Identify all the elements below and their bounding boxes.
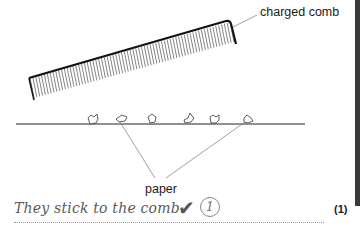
awarded-mark-circle: 1 [200, 197, 220, 217]
charged-comb-label: charged comb [260, 5, 339, 19]
paper-label: paper [145, 182, 177, 196]
paper-leader-line-right [166, 122, 245, 178]
paper-pieces [88, 113, 253, 124]
handwritten-answer: They stick to the comb. [14, 200, 185, 216]
comb-leader-line [233, 15, 257, 27]
page-edge-bar [355, 0, 360, 206]
paper-leader-line-left [120, 122, 155, 178]
marks-available: (1) [334, 203, 347, 215]
comb-icon [29, 21, 236, 100]
check-mark-icon: ✔ [178, 196, 195, 220]
answer-line [14, 222, 324, 223]
